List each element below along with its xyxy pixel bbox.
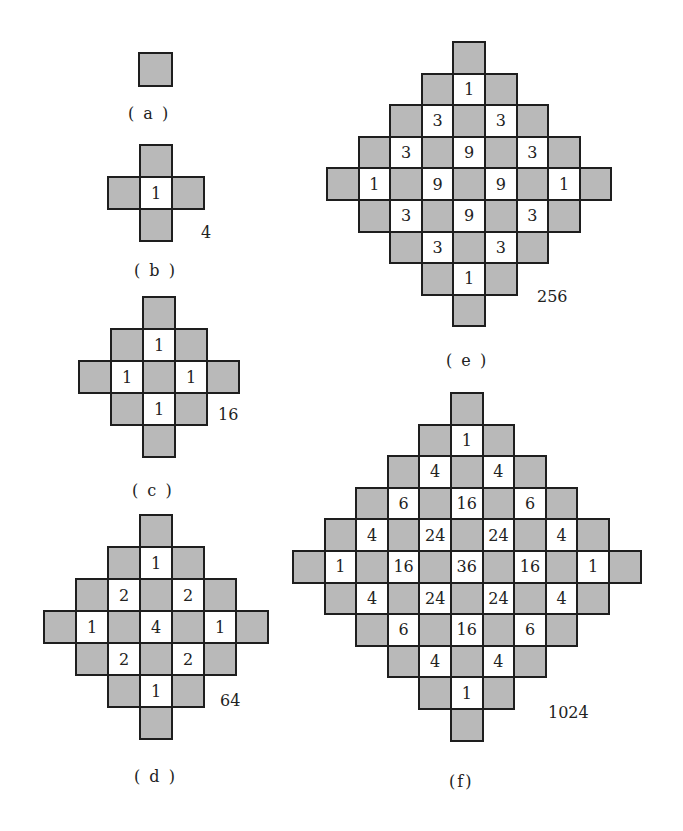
gray-cell xyxy=(545,550,579,584)
gray-cell xyxy=(78,360,112,394)
gray-cell xyxy=(418,424,452,458)
gray-cell xyxy=(418,550,452,584)
count-cell: 1 xyxy=(142,392,176,426)
gray-cell xyxy=(513,518,547,552)
gray-cell xyxy=(138,52,173,87)
gray-cell xyxy=(513,582,547,616)
count-cell: 1 xyxy=(452,73,486,107)
gray-cell xyxy=(450,708,484,742)
gray-cell xyxy=(389,167,423,201)
gray-cell xyxy=(452,231,486,265)
gray-cell xyxy=(355,487,389,521)
gray-cell xyxy=(387,455,421,489)
gray-cell xyxy=(513,455,547,489)
gray-cell xyxy=(171,610,205,644)
gray-cell xyxy=(576,582,610,616)
gray-cell xyxy=(171,176,205,210)
gray-cell xyxy=(421,73,455,107)
count-cell: 36 xyxy=(450,550,484,584)
count-cell: 3 xyxy=(484,104,518,138)
count-cell: 16 xyxy=(450,613,484,647)
figure-total: 4 xyxy=(201,223,211,242)
gray-cell xyxy=(452,294,486,328)
gray-cell xyxy=(292,550,326,584)
count-cell: 4 xyxy=(355,518,389,552)
gray-cell xyxy=(484,136,518,170)
gray-cell xyxy=(326,167,360,201)
count-cell: 4 xyxy=(482,645,516,679)
count-cell: 24 xyxy=(418,582,452,616)
count-cell: 16 xyxy=(513,550,547,584)
count-cell: 1 xyxy=(450,424,484,458)
gray-cell xyxy=(484,73,518,107)
figure-total: 16 xyxy=(218,405,238,424)
count-cell: 1 xyxy=(452,262,486,296)
gray-cell xyxy=(139,514,173,548)
gray-cell xyxy=(418,487,452,521)
gray-cell xyxy=(547,199,581,233)
gray-cell xyxy=(450,645,484,679)
gray-cell xyxy=(547,136,581,170)
count-cell: 4 xyxy=(355,582,389,616)
gray-cell xyxy=(107,546,141,580)
count-cell: 1 xyxy=(324,550,358,584)
count-cell: 2 xyxy=(107,578,141,612)
gray-cell xyxy=(107,610,141,644)
gray-cell xyxy=(107,674,141,708)
gray-cell xyxy=(516,167,550,201)
count-cell: 1 xyxy=(174,360,208,394)
gray-cell xyxy=(142,360,176,394)
count-cell: 24 xyxy=(482,518,516,552)
gray-cell xyxy=(139,642,173,676)
figure-total: 1024 xyxy=(548,703,589,722)
count-cell: 2 xyxy=(107,642,141,676)
gray-cell xyxy=(450,582,484,616)
gray-cell xyxy=(418,676,452,710)
gray-cell xyxy=(142,424,176,458)
gray-cell xyxy=(482,550,516,584)
gray-cell xyxy=(75,578,109,612)
gray-cell xyxy=(452,104,486,138)
count-cell: 1 xyxy=(139,176,173,210)
figure-caption: ( a ) xyxy=(128,104,170,123)
gray-cell xyxy=(235,610,269,644)
count-cell: 3 xyxy=(421,231,455,265)
count-cell: 1 xyxy=(203,610,237,644)
count-cell: 24 xyxy=(418,518,452,552)
count-cell: 6 xyxy=(387,613,421,647)
gray-cell xyxy=(516,231,550,265)
count-cell: 9 xyxy=(452,136,486,170)
figure-total: 256 xyxy=(537,287,568,306)
count-cell: 1 xyxy=(547,167,581,201)
count-cell: 3 xyxy=(421,104,455,138)
count-cell: 4 xyxy=(139,610,173,644)
count-cell: 6 xyxy=(513,613,547,647)
gray-cell xyxy=(421,136,455,170)
count-cell: 2 xyxy=(171,578,205,612)
gray-cell xyxy=(450,455,484,489)
count-cell: 2 xyxy=(171,642,205,676)
figure-caption: ( b ) xyxy=(134,261,177,280)
gray-cell xyxy=(421,262,455,296)
gray-cell xyxy=(452,167,486,201)
count-cell: 4 xyxy=(545,518,579,552)
count-cell: 1 xyxy=(139,674,173,708)
gray-cell xyxy=(139,706,173,740)
gray-cell xyxy=(452,41,486,75)
gray-cell xyxy=(171,546,205,580)
gray-cell xyxy=(482,487,516,521)
gray-cell xyxy=(355,613,389,647)
gray-cell xyxy=(107,176,141,210)
count-cell: 4 xyxy=(482,455,516,489)
gray-cell xyxy=(110,328,144,362)
gray-cell xyxy=(174,328,208,362)
gray-cell xyxy=(482,613,516,647)
gray-cell xyxy=(206,360,240,394)
gray-cell xyxy=(450,518,484,552)
gray-cell xyxy=(324,582,358,616)
count-cell: 3 xyxy=(484,231,518,265)
figure-total: 64 xyxy=(220,691,240,710)
gray-cell xyxy=(174,392,208,426)
count-cell: 3 xyxy=(516,136,550,170)
figure-caption: ( d ) xyxy=(134,767,177,786)
